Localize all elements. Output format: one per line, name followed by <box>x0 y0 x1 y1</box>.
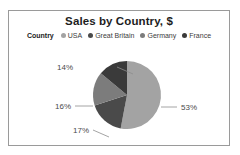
legend-item-usa[interactable]: USA <box>61 32 82 39</box>
legend-swatch-france <box>182 33 187 38</box>
legend-label-usa: USA <box>68 32 82 39</box>
chart-legend: Country USA Great Britain Germany France <box>9 32 229 39</box>
data-label-great-britain: 17% <box>73 126 89 135</box>
legend-title: Country <box>27 32 54 39</box>
legend-label-great-britain: Great Britain <box>95 32 134 39</box>
legend-label-germany: Germany <box>147 32 176 39</box>
legend-item-germany[interactable]: Germany <box>140 32 176 39</box>
data-label-germany: 16% <box>55 102 71 111</box>
legend-swatch-usa <box>61 33 66 38</box>
legend-item-france[interactable]: France <box>182 32 211 39</box>
legend-item-great-britain[interactable]: Great Britain <box>88 32 134 39</box>
legend-label-france: France <box>189 32 211 39</box>
chart-title: Sales by Country, $ <box>9 15 229 27</box>
leader-line-great-britain <box>93 130 109 137</box>
data-label-usa: 53% <box>181 103 197 112</box>
legend-swatch-germany <box>140 33 145 38</box>
pie-chart-svg: 14% 16% 17% 53% <box>9 45 231 145</box>
chart-card: Sales by Country, $ Country USA Great Br… <box>8 10 230 146</box>
pie-plot-area: 14% 16% 17% 53% <box>9 45 229 145</box>
data-label-france: 14% <box>57 63 73 72</box>
legend-swatch-great-britain <box>88 33 93 38</box>
